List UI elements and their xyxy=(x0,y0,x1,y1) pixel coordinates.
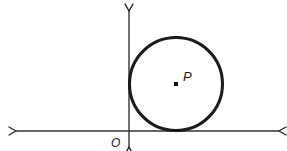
origin-label: O xyxy=(111,136,120,150)
center-point-p xyxy=(174,82,178,86)
center-label: P xyxy=(183,69,192,84)
diagram-canvas: P O xyxy=(0,0,287,151)
